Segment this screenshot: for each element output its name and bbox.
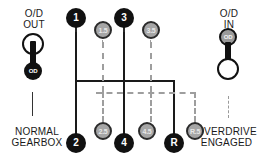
right-lever-bottom-open-knob[interactable] (217, 58, 239, 80)
od-in-label: O/D IN (201, 8, 257, 30)
right-lever-pointer-tick (228, 96, 230, 118)
gear-node-2-5[interactable]: 2.5 (94, 122, 112, 140)
gate-dashed-rail-reverse-half (194, 92, 196, 122)
gate-solid-rail-reverse (173, 80, 175, 135)
od-in-label-line1: O/D (220, 8, 238, 19)
gate-dashed-rail-1p5-2p5-upper (102, 42, 104, 92)
gate-dashed-rail-3p5-4p5-upper (150, 42, 152, 92)
gate-solid-crossbar (75, 80, 175, 82)
gear-node-r-5[interactable]: R.5 (186, 122, 204, 140)
gear-node-4-5[interactable]: 4.5 (138, 122, 156, 140)
overdrive-engaged-caption-line1: OVERDRIVE (196, 126, 257, 137)
gate-dashed-crossbar (96, 92, 196, 94)
gate-dashed-rail-1p5-2p5-lower (102, 92, 104, 122)
overdrive-engaged-caption-line2: ENGAGED (192, 137, 261, 148)
gear-node-3-5[interactable]: 3.5 (142, 21, 160, 39)
gear-node-1[interactable]: 1 (66, 8, 86, 28)
normal-gearbox-caption-line2: GEARBOX (0, 137, 74, 148)
node-stalk-3p5 (150, 40, 151, 46)
od-out-label-line1: O/D (25, 8, 43, 19)
gear-node-1-5[interactable]: 1.5 (94, 21, 112, 39)
left-lever-od-knob[interactable]: OD (24, 62, 42, 80)
node-stalk-1p5 (102, 40, 103, 46)
gear-node-r[interactable]: R (164, 133, 184, 153)
left-lever-pointer-tick (32, 92, 33, 116)
od-out-label-line2: OUT (6, 19, 62, 30)
gearshift-pattern-diagram: O/D OUT OD NORMAL GEARBOX O/D IN OD OVER… (0, 0, 261, 163)
gear-node-3[interactable]: 3 (114, 8, 134, 28)
normal-gearbox-caption-line1: NORMAL (15, 126, 59, 137)
gate-dashed-rail-3p5-4p5-lower (150, 92, 152, 122)
gear-node-4[interactable]: 4 (114, 133, 134, 153)
gear-node-2[interactable]: 2 (66, 133, 86, 153)
od-out-label: O/D OUT (6, 8, 62, 30)
normal-gearbox-caption: NORMAL GEARBOX (0, 126, 74, 148)
